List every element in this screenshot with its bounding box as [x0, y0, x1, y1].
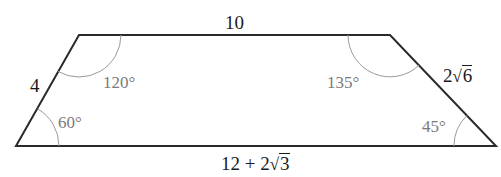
angle-arc-bottom-right — [454, 116, 467, 147]
angle-label-bottom-left: 60° — [58, 114, 82, 131]
angle-label-bottom-right: 45° — [422, 118, 446, 135]
angle-label-top-left: 120° — [103, 74, 135, 91]
side-label-right: 2√6 — [443, 65, 472, 85]
side-label-bottom-radicand: 3 — [279, 153, 290, 173]
angle-label-top-right: 135° — [327, 74, 359, 91]
sqrt-symbol: √ — [453, 67, 462, 86]
angle-arc-top-right — [348, 35, 419, 77]
side-label-top: 10 — [225, 13, 244, 32]
side-label-right-radicand: 6 — [462, 65, 473, 85]
angle-arc-bottom-left — [38, 109, 60, 146]
sqrt-symbol: √ — [270, 155, 279, 174]
trapezoid-diagram — [0, 0, 501, 177]
side-label-left: 4 — [30, 76, 40, 95]
side-label-right-coef: 2 — [443, 65, 453, 86]
side-label-bottom-prefix: 12 + 2 — [221, 153, 270, 174]
side-label-bottom: 12 + 2√3 — [221, 153, 290, 173]
